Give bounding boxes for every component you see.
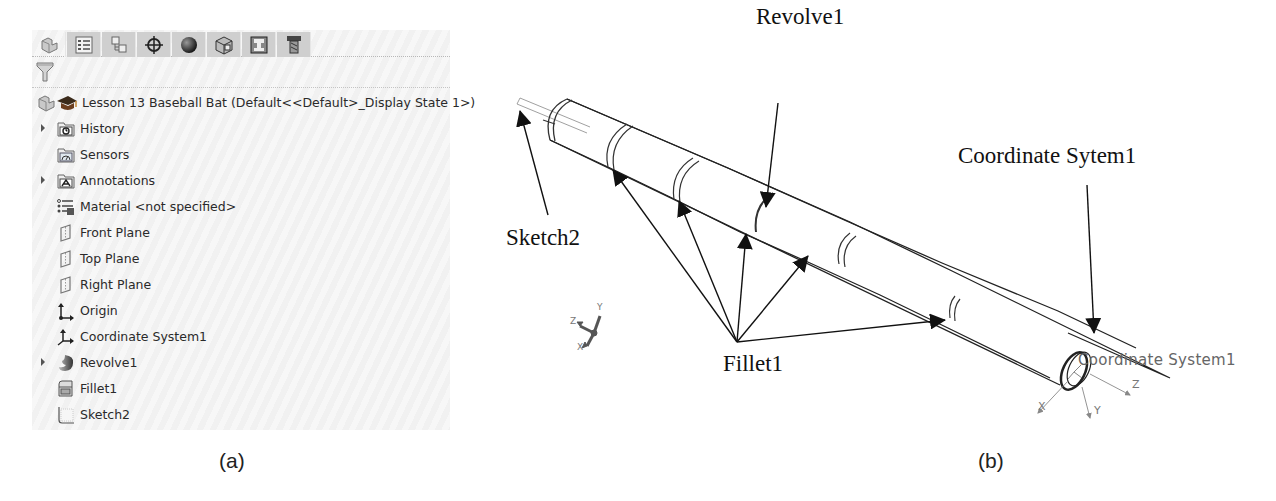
crosshair-icon [143, 35, 165, 55]
tree-item-revolve1[interactable]: Revolve1 [32, 350, 450, 376]
part-icon [36, 93, 56, 113]
baseball-bat-model [470, 0, 1276, 501]
tree-root-label: Lesson 13 Baseball Bat (Default<<Default… [82, 95, 475, 110]
cam-operation-tab[interactable] [242, 32, 276, 57]
tree-item-label: Coordinate System1 [80, 329, 207, 344]
barrel-end-cap [543, 99, 572, 141]
tree-item-origin[interactable]: Origin [32, 298, 450, 324]
cs-axis-z-label: Z [1132, 378, 1140, 391]
graduation-cap-icon [56, 93, 78, 113]
plane-icon [56, 275, 76, 295]
revolve1-arrow [766, 103, 778, 207]
cs-axis-x-label: X [1038, 400, 1046, 413]
bat-body [550, 99, 1170, 378]
feature-manager-panel: Lesson 13 Baseball Bat (Default<<Default… [32, 30, 450, 430]
tree-root-part[interactable]: Lesson 13 Baseball Bat (Default<<Default… [32, 90, 450, 116]
cam-tool-tab[interactable] [277, 32, 311, 57]
caption-a: (a) [219, 449, 245, 473]
fillet1-arrows [613, 170, 945, 342]
cam-tool-icon [283, 35, 305, 55]
callout-coordinate-system: Coordinate Sytem1 [958, 143, 1136, 169]
fillet-icon [56, 379, 76, 399]
sensors-folder-icon [56, 145, 76, 165]
cam-box-icon [213, 35, 235, 55]
tree-item-material[interactable]: Material <not specified> [32, 194, 450, 220]
history-folder-icon [56, 119, 76, 139]
tree-item-coordinate-system[interactable]: Coordinate System1 [32, 324, 450, 350]
plane-icon [56, 249, 76, 269]
manager-tab-bar [32, 30, 450, 57]
plane-icon [56, 223, 76, 243]
tree-item-annotations[interactable]: Annotations [32, 168, 450, 194]
display-manager-tab[interactable] [172, 32, 206, 57]
callout-sketch2: Sketch2 [506, 225, 580, 251]
tree-item-label: Origin [80, 303, 118, 318]
tree-item-label: Revolve1 [80, 355, 137, 370]
expand-arrow-icon[interactable] [41, 358, 45, 366]
model-view-panel: Revolve1 Sketch2 Fillet1 Coordinate Syte… [470, 0, 1276, 501]
tree-item-right-plane[interactable]: Right Plane [32, 272, 450, 298]
tree-item-sketch2[interactable]: Sketch2 [32, 402, 450, 428]
tree-item-label: Material <not specified> [80, 199, 236, 214]
cam-feature-tab[interactable] [207, 32, 241, 57]
cam-operation-icon [248, 35, 270, 55]
triad-z-label: Z [570, 316, 576, 326]
feature-manager-tab[interactable] [32, 32, 66, 57]
tree-item-fillet1[interactable]: Fillet1 [32, 376, 450, 402]
tree-item-label: Top Plane [80, 251, 139, 266]
tree-item-history[interactable]: History [32, 116, 450, 142]
configuration-icon [108, 35, 130, 55]
filter-funnel-icon[interactable] [36, 61, 54, 83]
expand-arrow-icon[interactable] [41, 176, 45, 184]
material-icon [56, 197, 76, 217]
tree-item-label: Front Plane [80, 225, 150, 240]
triad-y-label: Y [597, 302, 603, 312]
filter-row [32, 58, 450, 88]
tree-item-top-plane[interactable]: Top Plane [32, 246, 450, 272]
sketch-icon [56, 405, 76, 425]
caption-b: (b) [978, 449, 1004, 473]
coordinate-system-icon [56, 327, 76, 347]
tree-item-label: Right Plane [80, 277, 151, 292]
expand-arrow-icon[interactable] [41, 124, 45, 132]
sketch2-arrow [520, 111, 548, 215]
property-manager-tab[interactable] [67, 32, 101, 57]
tree-item-label: Sensors [80, 147, 129, 162]
annotations-folder-icon [56, 171, 76, 191]
tree-item-label: Annotations [80, 173, 155, 188]
revolve-icon [56, 353, 76, 373]
cs-axis-y-label: Y [1094, 404, 1101, 417]
callout-fillet1: Fillet1 [723, 351, 783, 377]
origin-icon [56, 301, 76, 321]
dimxpert-manager-tab[interactable] [137, 32, 171, 57]
tree-item-label: Fillet1 [80, 381, 117, 396]
triad-x-label: X [577, 342, 583, 352]
part-icon [38, 35, 60, 55]
appearance-sphere-icon [178, 35, 200, 55]
model-cs-label: Coordinate System1 [1078, 351, 1236, 369]
tree-item-label: History [80, 121, 124, 136]
feature-tree: Lesson 13 Baseball Bat (Default<<Default… [32, 90, 450, 428]
callout-revolve1: Revolve1 [756, 4, 844, 30]
tree-item-label: Sketch2 [80, 407, 130, 422]
coordinate-system-arrow [1087, 185, 1094, 333]
tree-item-front-plane[interactable]: Front Plane [32, 220, 450, 246]
property-list-icon [73, 35, 95, 55]
configuration-manager-tab[interactable] [102, 32, 136, 57]
fillet-rings [607, 124, 960, 321]
tree-item-sensors[interactable]: Sensors [32, 142, 450, 168]
